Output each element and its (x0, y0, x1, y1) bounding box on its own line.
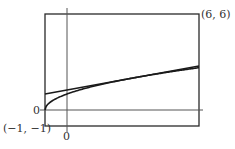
bottom-left-corner-label: (−1, −1) (3, 123, 51, 134)
top-right-corner-label: (6, 6) (201, 9, 231, 20)
sqrt-curve (45, 68, 199, 110)
y-origin-label: 0 (33, 105, 40, 116)
x-origin-label: 0 (63, 131, 70, 142)
